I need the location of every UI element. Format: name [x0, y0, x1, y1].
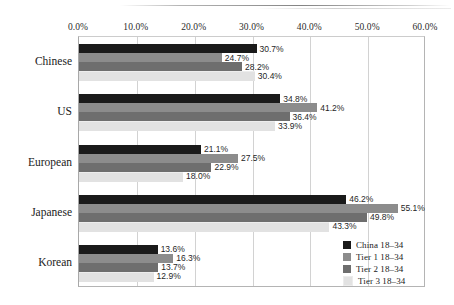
legend-label: Tier 2 18–34 — [356, 264, 403, 274]
bar-value-label: 43.3% — [329, 221, 356, 231]
bar — [79, 172, 183, 182]
bar-group-european: 21.1%27.5%22.9%18.0% — [79, 145, 424, 181]
legend-label: Tier 3 18–34 — [358, 276, 405, 286]
bar-row: 33.9% — [79, 121, 424, 130]
legend-swatch-icon — [343, 265, 351, 273]
legend-label: China 18–34 — [356, 240, 403, 250]
bar-value-label: 30.4% — [255, 70, 282, 80]
bar-row: 34.8% — [79, 94, 424, 103]
bar-group-japanese: 46.2%55.1%49.8%43.3% — [79, 195, 424, 231]
bar-value-label: 18.0% — [183, 171, 210, 181]
bar-value-label: 46.2% — [346, 194, 373, 204]
bar-row: 18.0% — [79, 172, 424, 181]
bar-value-label: 30.7% — [257, 43, 284, 53]
bar — [79, 245, 158, 254]
bar — [79, 204, 398, 213]
bar — [79, 62, 242, 71]
bar — [79, 145, 201, 154]
bar-value-label: 49.8% — [367, 212, 394, 222]
bar-group-us: 34.8%41.2%36.4%33.9% — [79, 94, 424, 130]
category-label-korean: Korean — [0, 256, 72, 268]
x-axis-tick-2: 20.0% — [181, 22, 206, 32]
bar-value-label: 22.9% — [211, 162, 238, 172]
bar — [79, 222, 329, 232]
x-axis-tick-6: 60.0% — [412, 22, 437, 32]
bar — [79, 272, 154, 282]
bar-row: 49.8% — [79, 213, 424, 222]
bar — [79, 121, 275, 131]
bar — [79, 213, 367, 222]
category-axis-labels: ChineseUSEuropeanJapaneseKorean — [0, 36, 72, 287]
bar-row: 41.2% — [79, 103, 424, 112]
bar-value-label: 55.1% — [398, 203, 425, 213]
category-label-japanese: Japanese — [0, 206, 72, 218]
x-axis-tick-0: 0.0% — [68, 22, 88, 32]
legend-item-2: Tier 2 18–34 — [343, 263, 423, 274]
bar-row: 28.2% — [79, 62, 424, 71]
bar — [79, 103, 317, 112]
x-axis-tick-4: 40.0% — [297, 22, 322, 32]
legend-label: Tier 1 18–34 — [356, 252, 403, 262]
bar — [79, 53, 222, 62]
grouped-bar-chart: 0.0%10.0%20.0%30.0%40.0%50.0%60.0% Chine… — [0, 0, 454, 305]
bar-value-label: 27.5% — [238, 153, 265, 163]
category-label-chinese: Chinese — [0, 55, 72, 67]
legend-item-1: Tier 1 18–34 — [343, 251, 423, 262]
category-label-us: US — [0, 105, 72, 117]
legend-swatch-icon — [343, 241, 351, 249]
bar-row: 36.4% — [79, 112, 424, 121]
bar-row: 46.2% — [79, 195, 424, 204]
bar-value-label: 34.8% — [280, 94, 307, 104]
bar-value-label: 12.9% — [154, 271, 181, 281]
bar-group-chinese: 30.7%24.7%28.2%30.4% — [79, 44, 424, 80]
category-label-european: European — [0, 156, 72, 168]
legend-swatch-icon — [343, 276, 353, 286]
bar-row: 30.7% — [79, 44, 424, 53]
legend-item-0: China 18–34 — [343, 239, 423, 250]
bar — [79, 94, 280, 103]
bar-value-label: 21.1% — [201, 144, 228, 154]
legend-item-3: Tier 3 18–34 — [343, 275, 423, 286]
bar — [79, 195, 346, 204]
bar-value-label: 41.2% — [317, 103, 344, 113]
bar — [79, 71, 255, 81]
bar-row: 43.3% — [79, 222, 424, 231]
bar-value-label: 33.9% — [275, 121, 302, 131]
bar — [79, 112, 290, 121]
bar-row: 22.9% — [79, 163, 424, 172]
bar-row: 30.4% — [79, 71, 424, 80]
x-axis-tick-5: 50.0% — [355, 22, 380, 32]
legend: China 18–34Tier 1 18–34Tier 2 18–34Tier … — [343, 239, 423, 287]
legend-swatch-icon — [343, 253, 351, 261]
bar-row: 27.5% — [79, 154, 424, 163]
x-axis-tick-1: 10.0% — [123, 22, 148, 32]
bar — [79, 263, 158, 272]
x-axis-tick-3: 30.0% — [239, 22, 264, 32]
